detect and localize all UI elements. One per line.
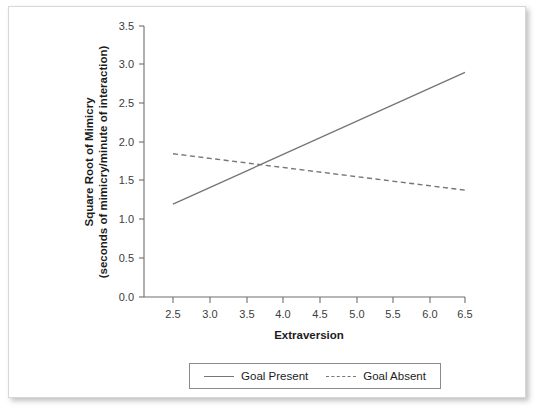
x-tick-label: 3.0 (202, 308, 217, 320)
x-tick-label: 4.0 (275, 308, 290, 320)
legend-label: Goal Present (241, 370, 308, 382)
y-tick-labels: 3.5 3.0 2.5 2.0 1.5 1.0 0.5 0.0 (119, 20, 134, 303)
legend-swatch-dashed-line-icon (326, 376, 356, 377)
legend-swatch-solid-line-icon (204, 376, 234, 377)
y-axis-title-line1: Square Root of Mimicry (83, 97, 95, 227)
y-tick-label: 0.0 (119, 291, 134, 303)
y-tick-label: 3.0 (119, 58, 134, 70)
line-chart: 3.5 3.0 2.5 2.0 1.5 1.0 0.5 0.0 2.5 3.0 … (9, 7, 527, 399)
x-tick-label: 2.5 (165, 308, 180, 320)
legend-entry-goal-absent: Goal Absent (326, 370, 426, 382)
x-tick-label: 3.5 (239, 308, 254, 320)
y-tick-label: 3.5 (119, 20, 134, 32)
legend-entry-goal-present: Goal Present (204, 370, 308, 382)
chart-legend: Goal Present Goal Absent (189, 363, 441, 389)
y-tick-marks (139, 26, 144, 297)
x-tick-label: 4.5 (312, 308, 327, 320)
y-tick-label: 0.5 (119, 252, 134, 264)
x-tick-label: 6.0 (422, 308, 437, 320)
x-tick-marks (173, 297, 465, 303)
x-tick-label: 5.0 (349, 308, 364, 320)
x-tick-label: 6.5 (457, 308, 472, 320)
y-tick-label: 1.0 (119, 213, 134, 225)
legend-label: Goal Absent (363, 370, 426, 382)
y-axis-title-line2: (seconds of mimicry/minute of interactio… (97, 46, 109, 279)
y-tick-label: 2.5 (119, 97, 134, 109)
x-tick-labels: 2.5 3.0 3.5 4.0 4.5 5.0 5.5 6.0 6.5 (165, 308, 472, 320)
x-tick-label: 5.5 (385, 308, 400, 320)
y-tick-label: 2.0 (119, 136, 134, 148)
y-tick-label: 1.5 (119, 174, 134, 186)
figure-frame: 3.5 3.0 2.5 2.0 1.5 1.0 0.5 0.0 2.5 3.0 … (8, 6, 526, 398)
x-axis-title: Extraversion (274, 329, 344, 341)
